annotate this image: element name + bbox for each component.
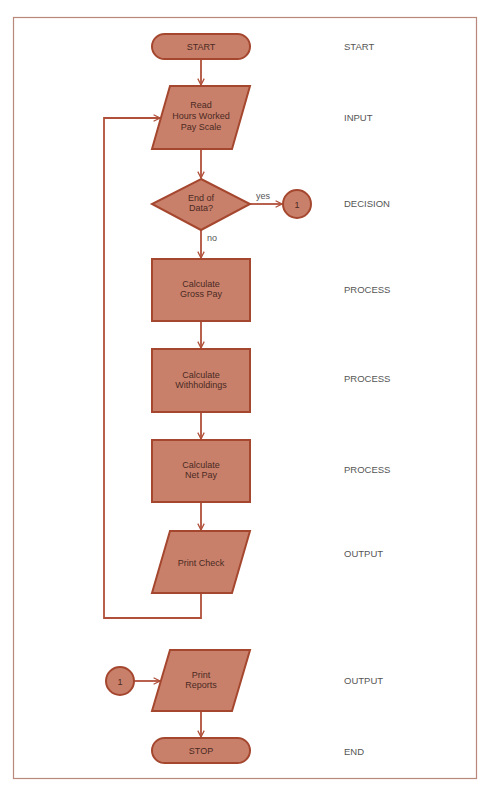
category-labels: START INPUT DECISION PROCESS PROCESS PRO… <box>344 41 390 757</box>
node-read-line-1: Read <box>190 100 212 110</box>
category-label-output-2: OUTPUT <box>344 675 383 686</box>
edge-label-yes: yes <box>256 191 271 201</box>
category-label-process-2: PROCESS <box>344 373 390 384</box>
node-withhold-line-1: Calculate <box>182 370 220 380</box>
flowchart-diagram: yes no START Read Hours Worked Pay Scale… <box>0 0 494 795</box>
node-reports-line-1: Print <box>192 670 211 680</box>
node-read-input: Read Hours Worked Pay Scale <box>152 86 250 149</box>
node-net-line-2: Net Pay <box>185 470 218 480</box>
node-check-line-1: Print Check <box>178 558 225 568</box>
node-stop-terminal: STOP <box>152 738 250 763</box>
connector-in-circle: 1 <box>106 667 134 695</box>
node-decision-diamond: End of Data? <box>152 179 250 230</box>
node-read-line-3: Pay Scale <box>181 122 222 132</box>
category-label-decision: DECISION <box>344 198 390 209</box>
node-net-pay-process: Calculate Net Pay <box>152 440 250 502</box>
flowchart-canvas: yes no START Read Hours Worked Pay Scale… <box>0 0 494 795</box>
node-reports-line-2: Reports <box>185 680 217 690</box>
node-start-terminal: START <box>152 34 250 59</box>
node-decision-line-2: Data? <box>189 203 213 213</box>
node-stop-label: STOP <box>189 746 213 756</box>
node-gross-line-2: Gross Pay <box>180 289 223 299</box>
connector-out-circle: 1 <box>283 190 311 218</box>
category-label-input: INPUT <box>344 112 373 123</box>
node-print-check-output: Print Check <box>152 531 250 593</box>
node-gross-pay-process: Calculate Gross Pay <box>152 259 250 321</box>
node-withholdings-process: Calculate Withholdings <box>152 349 250 412</box>
node-read-line-2: Hours Worked <box>172 111 229 121</box>
edge-label-no: no <box>207 233 217 243</box>
node-print-reports-output: Print Reports <box>152 650 250 711</box>
connector-out-label: 1 <box>294 200 299 210</box>
node-gross-line-1: Calculate <box>182 279 220 289</box>
category-label-start: START <box>344 41 374 52</box>
node-start-label: START <box>187 42 216 52</box>
node-withhold-line-2: Withholdings <box>175 380 227 390</box>
node-decision-line-1: End of <box>188 193 215 203</box>
node-net-line-1: Calculate <box>182 460 220 470</box>
category-label-output-1: OUTPUT <box>344 548 383 559</box>
category-label-process-3: PROCESS <box>344 464 390 475</box>
category-label-process-1: PROCESS <box>344 284 390 295</box>
category-label-end: END <box>344 746 364 757</box>
connector-in-label: 1 <box>117 677 122 687</box>
